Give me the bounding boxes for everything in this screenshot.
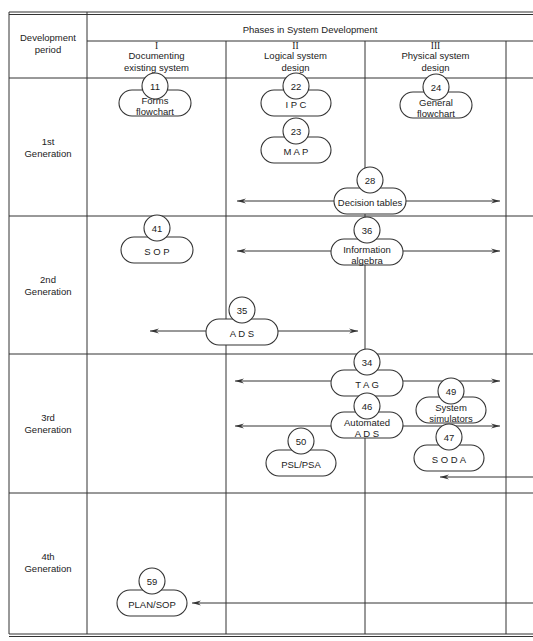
node-number: 41 [144,215,170,241]
node-label: General flowchart [400,96,472,120]
node-label: Forms flowchart [119,94,191,118]
row-label-1st-generation: 1st Generation [9,136,87,160]
node-label: I P C [261,92,331,116]
soda-arrow [440,475,533,480]
row-label-3rd-generation: 3rd Generation [9,412,87,436]
node-label: S O P [121,239,193,263]
node-number: 36 [354,217,380,243]
development-period-label: Development period [9,32,87,56]
phases-title: Phases in System Development [170,24,450,36]
node-label: System simulators [416,401,486,425]
node-label: Automated A D S [331,416,403,440]
row-label-2nd-generation: 2nd Generation [9,274,87,298]
node-number: 35 [229,297,255,323]
node-number: 50 [288,428,314,454]
node-label: A D S [206,321,278,345]
node-label: S O D A [414,447,484,471]
phase-label: Logical system design [226,50,365,74]
plan-sop-arrow [192,601,533,606]
node-label: Decision tables [334,190,406,214]
node-number: 59 [139,568,165,594]
node-label: Information algebra [331,243,403,267]
phase-label: Documenting existing system [87,50,226,74]
node-label: M A P [261,139,331,163]
node-label: PLAN/SOP [117,592,187,616]
node-label: PSL/PSA [266,452,336,476]
row-label-4th-generation: 4th Generation [9,551,87,575]
phase-label: Physical system design [365,50,506,74]
